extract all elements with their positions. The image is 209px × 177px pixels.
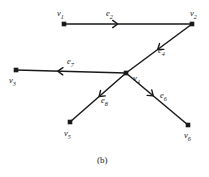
edge-label-e8: e8 <box>101 96 108 107</box>
node-label-v3: v3 <box>9 76 16 87</box>
node-marker-v1 <box>62 22 67 27</box>
node-marker-v3 <box>14 68 19 73</box>
node-label-v2: v2 <box>190 9 197 20</box>
node-label-v6: v6 <box>184 131 191 142</box>
graph-figure: e2e4e7e8e6v1v2v3v4v5v6 (b) <box>0 0 209 177</box>
edge-label-e2: e2 <box>106 9 113 20</box>
node-marker-v5 <box>68 120 73 125</box>
node-label-v1: v1 <box>57 9 64 20</box>
edge-label-e6: e6 <box>160 91 167 102</box>
node-markers-group <box>14 22 195 128</box>
node-label-v4: v4 <box>133 74 140 85</box>
node-label-v5: v5 <box>64 129 71 140</box>
edge-label-e4: e4 <box>158 46 165 57</box>
graph-canvas <box>0 0 209 177</box>
edge-line-e8 <box>70 73 126 122</box>
edge-lines-group <box>16 24 192 125</box>
node-marker-v2 <box>190 22 195 27</box>
figure-caption: (b) <box>97 155 108 165</box>
node-marker-v6 <box>186 123 191 128</box>
node-marker-v4 <box>124 71 129 76</box>
edge-label-e7: e7 <box>67 57 74 68</box>
edge-line-e7 <box>16 70 126 73</box>
